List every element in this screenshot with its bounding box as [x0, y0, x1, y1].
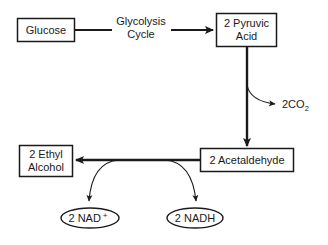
- nadh-label: 2 NADH: [175, 212, 215, 224]
- glucose-label: Glucose: [26, 24, 66, 36]
- reduction-edge: [76, 160, 200, 201]
- nadh-node: 2 NADH: [167, 208, 223, 228]
- ethyl-alcohol-node: 2 Ethyl Alcohol: [20, 146, 73, 177]
- pyruvic-acid-label-line2: Acid: [236, 30, 257, 42]
- acetaldehyde-label: 2 Acetaldehyde: [209, 154, 284, 166]
- co2-label: 2CO2: [282, 98, 309, 113]
- pyruvic-acid-label-line1: 2 Pyruvic: [224, 17, 270, 29]
- glucose-node: Glucose: [18, 19, 75, 42]
- glycolysis-label-line1: Glycolysis: [116, 15, 166, 27]
- glycolysis-edge: Glycolysis Cycle: [75, 15, 213, 40]
- ethyl-alcohol-label-line2: Alcohol: [28, 161, 64, 173]
- nad-plus-node: 2 NAD+: [61, 208, 119, 228]
- glycolysis-label-line2: Cycle: [127, 28, 155, 40]
- ethyl-alcohol-label-line1: 2 Ethyl: [29, 148, 63, 160]
- fermentation-diagram: Glucose Glycolysis Cycle 2 Pyruvic Acid …: [0, 0, 328, 245]
- pyruvic-acid-node: 2 Pyruvic Acid: [217, 14, 277, 47]
- decarboxylation-edge: 2CO2: [247, 47, 309, 146]
- acetaldehyde-node: 2 Acetaldehyde: [201, 149, 294, 172]
